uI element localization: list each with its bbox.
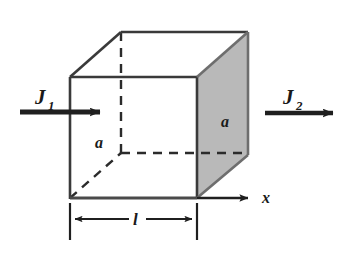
flux-out-label: J	[282, 85, 295, 109]
figure-canvas: J 1 J 2 a a l x	[0, 0, 356, 254]
flux-in-subscript: 1	[48, 98, 55, 113]
page-background	[0, 0, 356, 254]
flux-in-label: J	[34, 85, 47, 109]
x-axis-label: x	[261, 189, 270, 206]
flux-out-subscript: 2	[295, 98, 303, 113]
length-label: l	[133, 210, 138, 229]
side-label-front: a	[95, 134, 103, 151]
side-label-right: a	[221, 113, 229, 130]
cube-flux-diagram: J 1 J 2 a a l x	[0, 0, 356, 254]
